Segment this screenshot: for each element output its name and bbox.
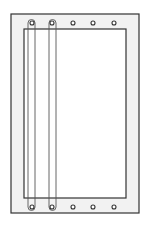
grommet-hole-icon xyxy=(112,205,116,209)
grommet-hole-icon xyxy=(112,21,116,25)
frame-diagram xyxy=(0,0,151,228)
grommet-hole-icon xyxy=(30,205,34,209)
grommet-hole-icon xyxy=(50,205,54,209)
inner-panel xyxy=(24,29,126,198)
grommet-hole-icon xyxy=(91,21,95,25)
grommet-hole-icon xyxy=(91,205,95,209)
grommet-hole-icon xyxy=(50,21,54,25)
grommet-hole-icon xyxy=(71,205,75,209)
grommet-hole-icon xyxy=(71,21,75,25)
grommet-hole-icon xyxy=(30,21,34,25)
